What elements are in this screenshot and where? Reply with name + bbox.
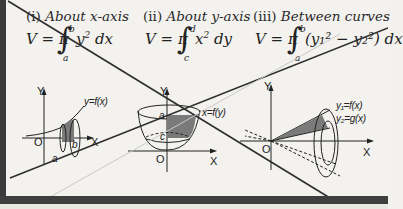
label-y-axis: Y bbox=[160, 85, 167, 97]
x-axis-arrow-icon bbox=[210, 149, 217, 154]
label-x-axis: X bbox=[363, 146, 370, 158]
label-bound-b: b bbox=[72, 139, 77, 150]
label-curve-y-f-x: y=f(x) bbox=[84, 96, 107, 107]
label-curve-y1: y₁=f(x) bbox=[336, 100, 362, 111]
label-bound-c: c bbox=[160, 131, 165, 142]
label-origin: O bbox=[34, 136, 43, 148]
diagram-between-curves bbox=[240, 84, 374, 177]
shaded-region bbox=[271, 115, 328, 141]
mirror-y1-dashed bbox=[271, 141, 340, 176]
label-origin: O bbox=[262, 143, 271, 155]
overlay-diagonal-line-1 bbox=[8, 1, 330, 198]
page-below-band bbox=[0, 204, 388, 209]
page-bottom-band bbox=[0, 196, 388, 204]
label-curve-y2: y₂=g(x) bbox=[336, 113, 366, 124]
label-x-axis: X bbox=[210, 155, 217, 167]
inner-ring bbox=[321, 121, 335, 165]
curve-y-f-x bbox=[26, 106, 84, 136]
left-dashed-2 bbox=[245, 136, 271, 141]
overlay-faint-line bbox=[50, 34, 340, 197]
x-axis-arrow-icon bbox=[367, 139, 374, 144]
label-origin: O bbox=[156, 153, 165, 165]
label-bound-a: a bbox=[52, 153, 57, 164]
label-y-axis: Y bbox=[37, 85, 44, 97]
label-curve-x-f-y: x=f(y) bbox=[202, 107, 225, 118]
label-x-axis: X bbox=[91, 136, 98, 148]
outer-ring bbox=[314, 109, 338, 177]
left-dashed-1 bbox=[245, 130, 271, 141]
overlay-diagonal-line-2 bbox=[10, 28, 388, 178]
mirror-y2-dashed bbox=[271, 141, 336, 164]
label-bound-a: a bbox=[159, 110, 164, 121]
label-y-axis: Y bbox=[264, 80, 271, 92]
